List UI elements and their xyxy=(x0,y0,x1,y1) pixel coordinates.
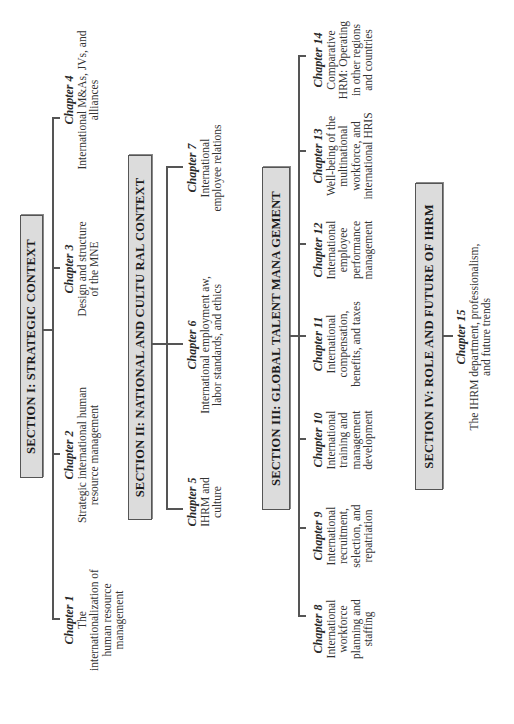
chapter-6-tick xyxy=(166,344,183,346)
chapter-7-title: Chapter 7 xyxy=(186,118,199,218)
chapter-1-tick xyxy=(52,619,60,621)
chapter-1-node: Chapter 1 The internationalization of hu… xyxy=(63,565,126,675)
chapter-13-tick xyxy=(298,151,306,153)
section-3-connector xyxy=(290,336,298,338)
chapter-6-desc: International employment aw, labor stand… xyxy=(199,275,224,415)
chapter-4-tick xyxy=(52,118,60,120)
section-2-title: SECTION II: NATIONAL AND CULTU RAL CONTE… xyxy=(133,178,148,498)
chapter-2-title: Chapter 2 xyxy=(63,375,76,535)
chapter-9-tick xyxy=(298,528,306,530)
chapter-15-node: Chapter 15 The IHRM department, professi… xyxy=(455,237,493,437)
chapter-5-desc: IHRM and culture xyxy=(199,467,224,537)
chapter-12-tick xyxy=(298,244,306,246)
chapter-14-node: Chapter 14 Comparative HRM: Operating in… xyxy=(312,17,375,103)
section-3-box: SECTION III: GLOBAL TALENT MANA GEMENT xyxy=(262,167,290,510)
chapter-8-title: Chapter 8 xyxy=(312,588,325,670)
chapter-15-title: Chapter 15 xyxy=(455,237,468,437)
chapter-14-tick xyxy=(298,56,306,58)
chapter-10-title: Chapter 10 xyxy=(312,397,325,483)
section-1-connector xyxy=(43,330,52,332)
chapter-10-desc: International training and management de… xyxy=(325,397,375,483)
chapter-3-tick xyxy=(52,268,60,270)
section-1-branch-line xyxy=(52,118,54,620)
chapter-1-desc: The internationalization of human resour… xyxy=(76,565,126,675)
chapter-1-title: Chapter 1 xyxy=(63,565,76,675)
chapter-10-tick xyxy=(298,439,306,441)
chapter-10-node: Chapter 10 International training and ma… xyxy=(312,397,375,483)
section-3-title: SECTION III: GLOBAL TALENT MANA GEMENT xyxy=(269,191,284,486)
chapter-2-desc: Strategic international human resource m… xyxy=(76,375,101,535)
chapter-14-title: Chapter 14 xyxy=(312,17,325,103)
chapter-4-title: Chapter 4 xyxy=(63,25,76,175)
chapter-13-desc: Well-being of the multinational workforc… xyxy=(325,112,375,200)
chapter-4-desc: International M&As, JVs, and alliances xyxy=(76,25,101,175)
chapter-2-tick xyxy=(52,454,60,456)
chapter-3-node: Chapter 3 Design and structure of the MN… xyxy=(63,219,101,319)
chapter-12-node: Chapter 12 International employee perfor… xyxy=(312,207,375,293)
chapter-3-desc: Design and structure of the MNE xyxy=(76,219,101,319)
chapter-11-desc: International compensation, benefits, an… xyxy=(325,299,363,389)
chapter-9-desc: International recruitment, selection, an… xyxy=(325,493,375,579)
chapter-6-node: Chapter 6 International employment aw, l… xyxy=(186,275,224,415)
chapter-5-node: Chapter 5 IHRM and culture xyxy=(186,467,224,537)
section-4-title: SECTION IV: ROLE AND FUTURE OF IHRM xyxy=(422,204,437,468)
chapter-13-node: Chapter 13 Well-being of the multination… xyxy=(312,112,375,200)
chapter-7-desc: International employee relations xyxy=(199,118,224,218)
chapter-12-desc: International employee performance manag… xyxy=(325,207,375,293)
chapter-15-desc: The IHRM department, professionalism, an… xyxy=(468,237,493,437)
chapter-9-node: Chapter 9 International recruitment, sel… xyxy=(312,493,375,579)
chapter-11-node: Chapter 11 International compensation, b… xyxy=(312,299,362,389)
chapter-8-tick xyxy=(298,616,306,618)
chapter-12-title: Chapter 12 xyxy=(312,207,325,293)
chapter-8-desc: International workforce planning and sta… xyxy=(325,588,375,670)
chapter-9-title: Chapter 9 xyxy=(312,493,325,579)
section-4-connector xyxy=(443,336,453,338)
chapter-6-title: Chapter 6 xyxy=(186,275,199,415)
ihrm-structure-diagram: SECTION I: STRATEGIC CONTEXT Chapter 1 T… xyxy=(0,0,514,724)
section-1-box: SECTION I: STRATEGIC CONTEXT xyxy=(20,215,43,478)
chapter-11-title: Chapter 11 xyxy=(312,299,325,389)
section-2-connector xyxy=(152,344,166,346)
chapter-5-title: Chapter 5 xyxy=(186,467,199,537)
chapter-8-node: Chapter 8 International workforce planni… xyxy=(312,588,375,670)
chapter-2-node: Chapter 2 Strategic international human … xyxy=(63,375,101,535)
chapter-5-tick xyxy=(166,509,183,511)
chapter-7-node: Chapter 7 International employee relatio… xyxy=(186,118,224,218)
chapter-4-node: Chapter 4 International M&As, JVs, and a… xyxy=(63,25,101,175)
section-4-box: SECTION IV: ROLE AND FUTURE OF IHRM xyxy=(415,183,443,490)
section-1-title: SECTION I: STRATEGIC CONTEXT xyxy=(24,239,39,454)
chapter-11-tick xyxy=(298,336,306,338)
chapter-3-title: Chapter 3 xyxy=(63,219,76,319)
chapter-14-desc: Comparative HRM: Operating in other regi… xyxy=(325,17,375,103)
chapter-7-tick xyxy=(166,167,183,169)
section-2-box: SECTION II: NATIONAL AND CULTU RAL CONTE… xyxy=(128,155,152,520)
section-2-branch-line xyxy=(166,167,168,510)
chapter-13-title: Chapter 13 xyxy=(312,112,325,200)
